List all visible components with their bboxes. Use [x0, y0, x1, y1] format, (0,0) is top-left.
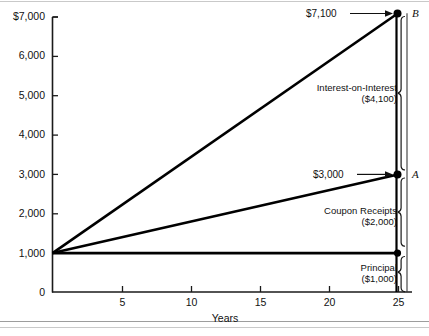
segment-label-coupon-receipts-amount: ($2,000)	[250, 216, 397, 227]
y-tick-label-6000: 6,000	[0, 50, 45, 61]
segment-label-interest-on-interest-amount: ($4,100)	[250, 93, 397, 104]
axes-group	[52, 17, 412, 293]
segment-label-coupon-receipts-name: Coupon Receipts	[250, 205, 397, 216]
callout-value-point-a: $3,000	[313, 169, 344, 180]
segment-label-principal-name: Principal	[250, 262, 397, 273]
data-point-label-b: B	[412, 8, 419, 19]
x-tick-label-5: 5	[105, 297, 140, 308]
y-tick-label-4000: 4,000	[0, 129, 45, 140]
data-point-label-a: A	[412, 169, 419, 180]
chart-figure: $7,000 6,000 5,000 4,000 3,000 2,000 1,0…	[0, 0, 429, 336]
brace-coupon-receipts	[398, 178, 405, 246]
y-tick-label-5000: 5,000	[0, 90, 45, 101]
x-tick-marks	[123, 286, 399, 292]
data-point-a-marker	[394, 170, 402, 178]
y-tick-label-2000: 2,000	[0, 208, 45, 219]
x-tick-label-25: 25	[381, 297, 416, 308]
data-point-b-marker	[394, 10, 402, 18]
data-point-principal-end-marker	[394, 250, 401, 257]
y-tick-label-1000: 1,000	[0, 248, 45, 259]
x-tick-label-10: 10	[174, 297, 209, 308]
segment-label-interest-on-interest-name: Interest-on-Interest	[250, 82, 397, 93]
segment-label-principal-amount: ($1,000)	[250, 273, 397, 284]
y-tick-label-3000: 3,000	[0, 169, 45, 180]
callout-arrow-b	[350, 10, 393, 16]
x-axis-title: Years	[190, 313, 260, 324]
chart-plot-area	[0, 0, 429, 336]
y-tick-marks	[53, 17, 59, 253]
brace-interest-on-interest	[398, 17, 405, 170]
callout-value-point-b: $7,100	[306, 8, 337, 19]
x-tick-label-15: 15	[243, 297, 278, 308]
y-tick-label-0: 0	[0, 287, 45, 298]
y-tick-label-7000: $7,000	[0, 11, 45, 22]
x-tick-label-20: 20	[312, 297, 347, 308]
